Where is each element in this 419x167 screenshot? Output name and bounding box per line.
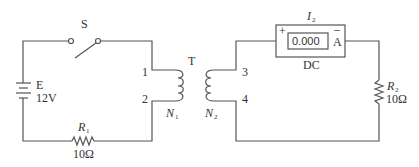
n1-subscript: 1 [175,113,179,121]
circuit-diagram: S E 12V R 1 10Ω 1 2 T N 1 N 2 [0,0,419,167]
n2-label: N [204,106,214,120]
ammeter-subscript: 2 [312,16,316,24]
wire-top-left [23,41,69,83]
terminal-4-label: 4 [242,92,248,106]
wire-top-right-secondary [345,41,379,80]
r2-value: 10Ω [386,92,407,106]
ammeter-unit: A [333,35,342,49]
ammeter-plus: + [279,24,286,38]
transformer: T N 1 N 2 [165,54,218,121]
transformer-label: T [188,54,196,68]
ammeter-mode: DC [303,58,320,72]
battery-label: E [36,78,43,92]
r1-label: R [77,120,86,134]
terminal-2-label: 2 [142,92,148,106]
ammeter-minus: – [333,22,341,36]
switch-contact-right [96,39,101,44]
r1-value: 10Ω [73,147,94,161]
wire-bottom-secondary [214,101,379,141]
switch-contact-left [69,39,74,44]
r2-label: R [386,79,395,93]
switch[interactable] [69,39,101,59]
ammeter: 0.000 + – A DC I 2 [276,9,345,72]
resistor-r1 [72,137,94,145]
n2-subscript: 2 [214,113,218,121]
switch-label: S [81,17,88,31]
wire-top-right [101,41,176,70]
secondary-coil [206,70,214,101]
terminal-3-label: 3 [242,65,248,79]
r1-subscript: 1 [86,127,90,135]
battery [16,83,31,98]
resistor-r2 [375,80,383,104]
primary-coil [175,70,183,101]
n1-label: N [165,106,175,120]
primary-circuit: S E 12V R 1 10Ω 1 2 [16,17,175,161]
battery-voltage: 12V [36,91,57,105]
terminal-1-label: 1 [142,65,148,79]
ammeter-reading: 0.000 [292,35,320,47]
secondary-circuit: 3 4 0.000 + – A DC I 2 R 2 10Ω [214,9,407,141]
wire-bottom-right [94,101,175,141]
switch-blade [75,43,96,58]
